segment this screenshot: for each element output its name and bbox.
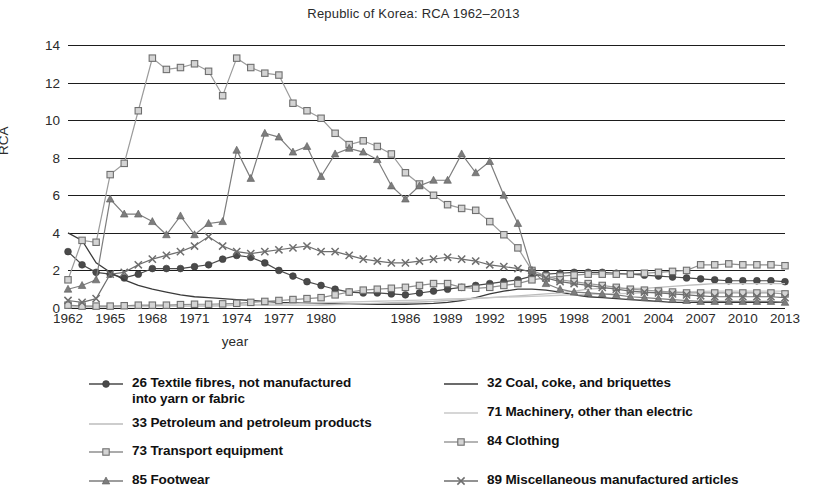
marker-85 bbox=[233, 146, 241, 153]
marker-84 bbox=[360, 138, 366, 144]
series-layer bbox=[68, 45, 785, 308]
marker-89 bbox=[163, 252, 170, 259]
marker-26 bbox=[135, 271, 142, 278]
legend-label: 71 Machinery, other than electric bbox=[487, 404, 693, 420]
legend-item-33[interactable]: 33 Petroleum and petroleum products bbox=[88, 415, 372, 431]
plot-area bbox=[68, 45, 785, 308]
legend-item-85[interactable]: 85 Footwear bbox=[88, 472, 210, 488]
series-85 bbox=[64, 129, 789, 305]
marker-89 bbox=[346, 252, 353, 259]
marker-26 bbox=[304, 278, 311, 285]
y-tick-14: 14 bbox=[0, 38, 60, 53]
marker-84 bbox=[318, 115, 324, 121]
x-tick-1962: 1962 bbox=[53, 311, 83, 326]
marker-26 bbox=[149, 265, 156, 272]
marker-84 bbox=[290, 100, 296, 106]
y-tick-6: 6 bbox=[0, 188, 60, 203]
marker-26 bbox=[205, 261, 212, 268]
marker-26 bbox=[65, 248, 72, 255]
marker-84 bbox=[135, 108, 141, 114]
legend-item-26[interactable]: 26 Textile fibres, not manufactured into… bbox=[88, 375, 351, 407]
marker-84 bbox=[107, 171, 113, 177]
marker-73 bbox=[276, 297, 282, 303]
x-tick-1995: 1995 bbox=[517, 311, 547, 326]
marker-84 bbox=[219, 93, 225, 99]
marker-73 bbox=[402, 284, 408, 290]
x-tick-1998: 1998 bbox=[559, 311, 589, 326]
marker-73 bbox=[318, 294, 324, 300]
legend-marker-icon bbox=[443, 376, 479, 391]
marker-73 bbox=[641, 270, 647, 276]
y-tick-2: 2 bbox=[0, 263, 60, 278]
marker-73 bbox=[121, 303, 127, 309]
x-tick-1992: 1992 bbox=[475, 311, 505, 326]
marker-84 bbox=[487, 218, 493, 224]
marker-84 bbox=[458, 205, 464, 211]
chart-figure: Republic of Korea: RCA 1962–2013 RCA 024… bbox=[0, 0, 827, 497]
marker-73 bbox=[107, 303, 113, 309]
marker-73 bbox=[304, 295, 310, 301]
x-tick-2013: 2013 bbox=[770, 311, 800, 326]
marker-73 bbox=[782, 263, 788, 269]
legend-item-89[interactable]: 89 Miscellaneous manufactured articles bbox=[443, 472, 738, 488]
marker-26 bbox=[79, 261, 86, 268]
legend-label: 73 Transport equipment bbox=[132, 443, 283, 459]
legend-marker-icon bbox=[443, 405, 479, 420]
marker-84 bbox=[473, 207, 479, 213]
marker-26 bbox=[402, 291, 409, 298]
marker-89 bbox=[205, 233, 212, 240]
marker-26 bbox=[711, 276, 718, 283]
chart-title: Republic of Korea: RCA 1962–2013 bbox=[0, 6, 827, 21]
marker-73 bbox=[332, 292, 338, 298]
marker-84 bbox=[121, 160, 127, 166]
y-tick-10: 10 bbox=[0, 113, 60, 128]
legend-item-73[interactable]: 73 Transport equipment bbox=[88, 443, 283, 459]
marker-84 bbox=[501, 232, 507, 238]
marker-26 bbox=[275, 267, 282, 274]
marker-84 bbox=[276, 72, 282, 78]
marker-26 bbox=[93, 269, 100, 276]
x-tick-2001: 2001 bbox=[601, 311, 631, 326]
marker-26 bbox=[290, 273, 297, 280]
legend-item-71[interactable]: 71 Machinery, other than electric bbox=[443, 404, 693, 420]
marker-89 bbox=[135, 261, 142, 268]
marker-85 bbox=[261, 129, 269, 136]
series-89 bbox=[64, 233, 788, 306]
marker-26 bbox=[683, 275, 690, 282]
marker-73 bbox=[473, 285, 479, 291]
marker-73 bbox=[416, 282, 422, 288]
legend-marker-icon bbox=[88, 376, 124, 391]
legend-label: 33 Petroleum and petroleum products bbox=[132, 415, 372, 431]
marker-73 bbox=[163, 302, 169, 308]
y-tick-8: 8 bbox=[0, 150, 60, 165]
legend-item-84[interactable]: 84 Clothing bbox=[443, 433, 559, 449]
marker-73 bbox=[740, 262, 746, 268]
x-tick-1986: 1986 bbox=[390, 311, 420, 326]
marker-85 bbox=[247, 174, 255, 181]
marker-84 bbox=[304, 108, 310, 114]
marker-26 bbox=[416, 290, 423, 297]
marker-73 bbox=[669, 268, 675, 274]
x-axis-tick-labels: 1962196519681971197419771980198619891992… bbox=[0, 311, 827, 333]
x-tick-2004: 2004 bbox=[643, 311, 673, 326]
legend-marker-icon bbox=[443, 434, 479, 449]
marker-89 bbox=[149, 256, 156, 263]
marker-73 bbox=[585, 271, 591, 277]
series-line-26 bbox=[68, 252, 785, 295]
marker-89 bbox=[177, 248, 184, 255]
legend-item-32[interactable]: 32 Coal, coke, and briquettes bbox=[443, 375, 671, 391]
marker-84 bbox=[177, 64, 183, 70]
y-tick-4: 4 bbox=[0, 225, 60, 240]
series-26 bbox=[65, 248, 789, 298]
marker-26 bbox=[318, 282, 325, 289]
marker-85 bbox=[303, 142, 311, 149]
chart-legend: 26 Textile fibres, not manufactured into… bbox=[0, 371, 827, 497]
marker-26 bbox=[219, 256, 226, 263]
marker-26 bbox=[163, 265, 170, 272]
legend-marker-icon bbox=[88, 444, 124, 459]
gridline-0 bbox=[68, 308, 785, 309]
y-axis-tick-labels: 02468101214 bbox=[0, 45, 60, 308]
marker-85 bbox=[149, 218, 157, 225]
marker-89 bbox=[93, 295, 100, 302]
marker-73 bbox=[248, 299, 254, 305]
